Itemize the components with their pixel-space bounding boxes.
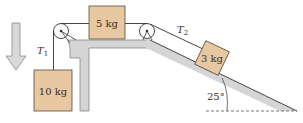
physics-diagram: 25° T1 T2 5 kg 10 kg 3 kg <box>0 0 303 123</box>
right-pulley <box>140 24 155 41</box>
down-arrow-icon <box>6 23 26 70</box>
tension-label-t2: T2 <box>177 24 188 37</box>
tension-label-t1: T1 <box>37 45 48 58</box>
block-5kg: 5 kg <box>89 6 125 39</box>
block-10kg: 10 kg <box>34 70 72 111</box>
svg-text:3 kg: 3 kg <box>201 53 224 64</box>
angle-label: 25° <box>207 91 225 102</box>
table-surface <box>68 40 150 111</box>
svg-text:10 kg: 10 kg <box>39 86 68 97</box>
svg-text:5 kg: 5 kg <box>96 18 119 29</box>
